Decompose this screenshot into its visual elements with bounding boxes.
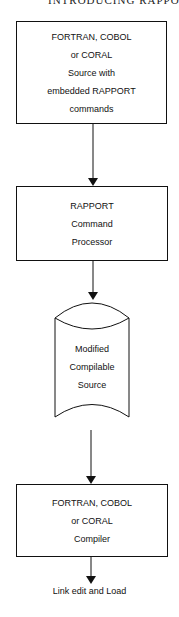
processor-line-3: Processor — [72, 233, 113, 251]
compiler-line-3: Compiler — [74, 530, 110, 548]
source-box: FORTRAN, COBOL or CORAL Source with embe… — [16, 21, 167, 124]
source-line-5: commands — [69, 100, 113, 118]
processor-line-2: Command — [71, 215, 113, 233]
modified-line-2: Compilable — [69, 358, 114, 376]
compiler-line-2: or CORAL — [71, 512, 113, 530]
processor-box: RAPPORT Command Processor — [16, 186, 168, 261]
compiler-box: FORTRAN, COBOL or CORAL Compiler — [16, 484, 168, 557]
terminal-label: Link edit and Load — [0, 586, 179, 596]
source-line-2: or CORAL — [71, 46, 113, 64]
processor-line-1: RAPPORT — [70, 197, 113, 215]
modified-source-cylinder: Modified Compilable Source — [54, 340, 130, 394]
modified-line-1: Modified — [75, 340, 109, 358]
source-line-3: Source with — [68, 64, 115, 82]
source-line-4: embedded RAPPORT — [47, 82, 135, 100]
source-line-1: FORTRAN, COBOL — [52, 28, 132, 46]
compiler-line-1: FORTRAN, COBOL — [52, 494, 132, 512]
modified-line-3: Source — [78, 376, 107, 394]
